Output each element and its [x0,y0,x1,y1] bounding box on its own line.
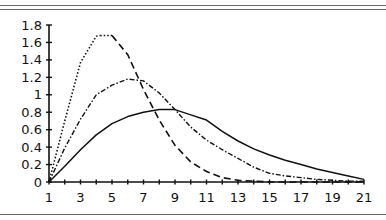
series-dashed-peak-rise [49,35,100,182]
y-tick-label: 1 [34,87,42,102]
series-dash-dot [49,79,364,182]
y-tick-label: 0.8 [21,105,42,120]
y-tick-label: 1.4 [21,52,42,67]
x-tick-label: 13 [230,190,247,205]
series-dashed-peak-fall [112,35,364,182]
x-tick-label: 15 [261,190,278,205]
y-tick-label: 0.6 [21,122,42,137]
y-tick-label: 1.2 [21,70,42,85]
x-tick-label: 11 [198,190,215,205]
y-tick-label: 0 [34,175,42,190]
x-tick-label: 5 [108,190,116,205]
series-layer [49,35,364,182]
x-tick-label: 3 [76,190,84,205]
y-tick-label: 0.4 [21,140,42,155]
y-tick-label: 0.2 [21,157,42,172]
y-tick-label: 1.6 [21,35,42,50]
line-chart: 00.20.40.60.811.21.41.61.8 1357911131517… [0,0,386,220]
x-tick-label: 19 [324,190,341,205]
x-tick-label: 9 [171,190,179,205]
x-tick-label: 21 [356,190,373,205]
x-axis: 13579111315171921 [45,180,372,206]
x-tick-label: 7 [139,190,147,205]
y-axis: 00.20.40.60.811.21.41.61.8 [21,18,52,190]
x-tick-label: 1 [45,190,53,205]
x-tick-label: 17 [293,190,310,205]
y-tick-label: 1.8 [21,18,42,33]
